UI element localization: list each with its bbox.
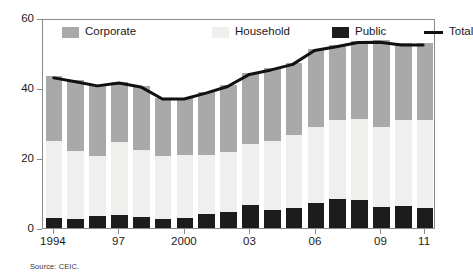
bar-segment-household (67, 151, 84, 220)
x-tick-mark (118, 229, 119, 234)
bar-group[interactable] (351, 41, 368, 228)
bar-segment-corporate (351, 41, 368, 119)
bar-segment-public (220, 212, 237, 228)
bar-segment-corporate (264, 68, 281, 140)
bar-segment-corporate (373, 40, 390, 127)
source-note: Source: CEIC. (30, 262, 79, 271)
legend-item-public[interactable]: Public (332, 24, 386, 40)
y-tick-label: 40 (0, 83, 34, 95)
bar-group[interactable] (417, 43, 434, 228)
x-tick-label: 2000 (171, 236, 197, 248)
bar-segment-household (351, 119, 368, 201)
bar-segment-household (177, 155, 194, 217)
bar-segment-public (286, 208, 303, 228)
bar-segment-corporate (67, 80, 84, 150)
bar-segment-public (264, 210, 281, 228)
bar-segment-household (264, 141, 281, 210)
legend-line-icon (424, 31, 443, 34)
bar-group[interactable] (177, 98, 194, 228)
bar-segment-corporate (177, 98, 194, 155)
chart-legend: CorporateHouseholdPublicTotal (52, 24, 426, 42)
x-tick-mark (249, 229, 250, 234)
bar-segment-corporate (220, 85, 237, 152)
bar-group[interactable] (329, 45, 346, 228)
bar-segment-household (242, 144, 259, 205)
bar-segment-corporate (417, 43, 434, 120)
bar-segment-household (46, 141, 63, 218)
y-axis: 0204060 (0, 0, 42, 250)
legend-label: Household (235, 26, 290, 38)
bar-group[interactable] (264, 68, 281, 228)
legend-item-total[interactable]: Total (424, 24, 473, 40)
bar-segment-corporate (242, 73, 259, 144)
bar-group[interactable] (308, 49, 325, 228)
x-tick-mark (380, 229, 381, 234)
bar-segment-public (373, 207, 390, 228)
bar-segment-public (351, 200, 368, 228)
bar-segment-household (133, 150, 150, 218)
bar-group[interactable] (155, 98, 172, 228)
bar-group[interactable] (198, 92, 215, 228)
bar-segment-public (46, 218, 63, 229)
bar-segment-public (89, 216, 106, 228)
bar-segment-corporate (395, 43, 412, 120)
bar-segment-household (417, 120, 434, 208)
bar-segment-public (395, 206, 412, 228)
bar-segment-corporate (329, 45, 346, 120)
y-tick-label: 20 (0, 153, 34, 165)
bar-segment-public (308, 203, 325, 228)
x-tick-mark (424, 229, 425, 234)
bar-segment-corporate (46, 76, 63, 140)
x-tick-label: 09 (374, 236, 387, 248)
bar-segment-public (329, 199, 346, 228)
x-tick-label: 11 (418, 236, 430, 248)
x-axis: 199497200003060911 (42, 229, 435, 265)
bar-group[interactable] (133, 86, 150, 228)
bar-segment-household (286, 135, 303, 209)
plot-area (42, 19, 435, 229)
bar-segment-corporate (89, 85, 106, 157)
x-tick-label: 06 (309, 236, 322, 248)
bar-group[interactable] (220, 85, 237, 228)
bar-group[interactable] (89, 85, 106, 229)
legend-swatch-icon (332, 27, 349, 38)
bar-segment-household (329, 120, 346, 199)
bar-segment-public (67, 219, 84, 228)
bar-segment-corporate (308, 49, 325, 127)
bar-group[interactable] (111, 82, 128, 228)
bar-segment-household (89, 156, 106, 216)
bar-group[interactable] (67, 80, 84, 228)
x-tick-label: 97 (112, 236, 125, 248)
legend-item-household[interactable]: Household (212, 24, 290, 40)
legend-item-corporate[interactable]: Corporate (62, 24, 136, 40)
bar-group[interactable] (373, 40, 390, 228)
bar-segment-corporate (133, 86, 150, 150)
x-tick-mark (315, 229, 316, 234)
bar-segment-corporate (155, 98, 172, 156)
x-tick-label: 1994 (40, 236, 66, 248)
bar-segment-household (198, 155, 215, 214)
bar-segment-household (155, 156, 172, 219)
bar-segment-household (220, 152, 237, 212)
bar-segment-household (373, 127, 390, 207)
bar-group[interactable] (46, 76, 63, 228)
legend-label: Corporate (85, 26, 136, 38)
bar-group[interactable] (395, 43, 412, 228)
legend-label: Public (355, 26, 386, 38)
bar-segment-household (308, 127, 325, 203)
bar-segment-public (198, 214, 215, 228)
bar-segment-household (111, 142, 128, 216)
bar-segment-public (155, 219, 172, 228)
bar-group[interactable] (242, 73, 259, 228)
bar-group[interactable] (286, 63, 303, 228)
bar-segment-public (177, 218, 194, 229)
y-tick-label: 60 (0, 13, 34, 25)
legend-label: Total (449, 26, 473, 38)
bar-segment-public (417, 208, 434, 228)
bar-segment-public (133, 217, 150, 228)
y-tick-label: 0 (0, 223, 34, 235)
bar-segment-corporate (198, 92, 215, 155)
x-tick-mark (184, 229, 185, 234)
bar-segment-corporate (286, 63, 303, 135)
